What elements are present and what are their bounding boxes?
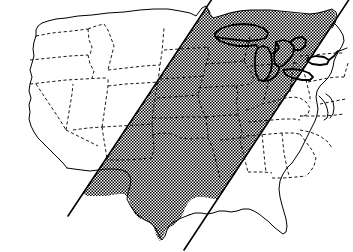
map-figure — [0, 0, 353, 252]
us-map-svg — [0, 0, 353, 252]
